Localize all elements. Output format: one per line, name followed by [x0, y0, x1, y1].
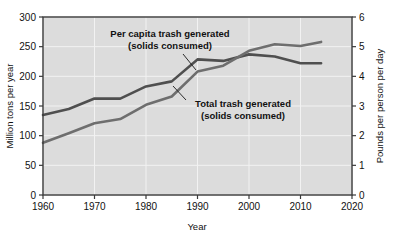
- y-axis-right-title: Pounds per person per day: [374, 48, 385, 163]
- tick-label-y-left: 200: [19, 71, 36, 82]
- tick-label-y-left: 0: [30, 190, 36, 201]
- tick-label-x: 1990: [186, 201, 209, 212]
- tick-label-x: 1960: [32, 201, 55, 212]
- tick-label-y-right: 3: [359, 101, 365, 112]
- tick-label-y-right: 2: [359, 130, 365, 141]
- x-axis-title: Year: [187, 221, 206, 232]
- tick-label-y-left: 250: [19, 41, 36, 52]
- tick-label-y-right: 4: [359, 71, 365, 82]
- tick-label-x: 2010: [289, 201, 312, 212]
- tick-label-y-right: 5: [359, 41, 365, 52]
- tick-label-x: 1980: [135, 201, 158, 212]
- tick-label-y-left: 300: [19, 12, 36, 23]
- chart-container: 050100150200250300 0123456 1960197019801…: [0, 0, 393, 237]
- y-axis-left-title: Million tons per year: [4, 63, 15, 148]
- tick-label-y-right: 0: [359, 190, 365, 201]
- annotation-per-capita-line2: (solids consumed): [128, 40, 212, 51]
- annotation-total-line1: Total trash generated: [195, 98, 291, 109]
- annotation-total-line2: (solids consumed): [201, 110, 285, 121]
- tick-label-x: 2000: [238, 201, 261, 212]
- tick-label-y-left: 50: [25, 160, 37, 171]
- tick-label-y-right: 6: [359, 12, 365, 23]
- tick-label-x: 2020: [341, 201, 364, 212]
- tick-label-y-right: 1: [359, 160, 365, 171]
- annotation-per-capita-line1: Per capita trash generated: [110, 28, 230, 39]
- tick-label-x: 1970: [83, 201, 106, 212]
- tick-label-y-left: 100: [19, 130, 36, 141]
- line-chart: 050100150200250300 0123456 1960197019801…: [0, 0, 393, 237]
- tick-label-y-left: 150: [19, 101, 36, 112]
